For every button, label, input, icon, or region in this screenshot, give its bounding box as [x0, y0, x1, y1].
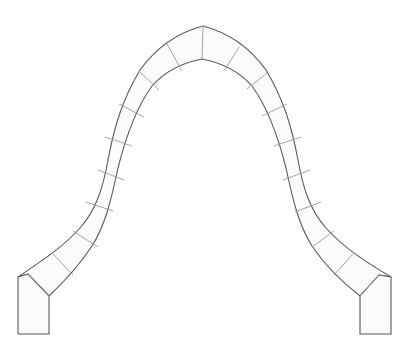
arch-body	[18, 26, 391, 296]
arch-diagram	[0, 0, 408, 343]
arch-ring	[18, 26, 391, 296]
piers	[18, 274, 391, 334]
